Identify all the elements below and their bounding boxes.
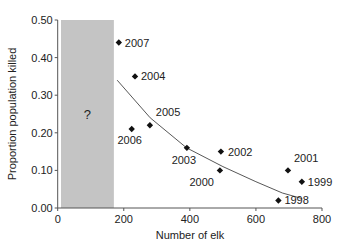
diamond-marker-icon: [132, 73, 138, 79]
y-axis-label: Proportion population killed: [6, 48, 18, 181]
point-label: 1999: [308, 176, 332, 188]
data-point-2002: 2002: [218, 146, 253, 158]
data-point-2006: 2006: [117, 126, 141, 146]
data-point-2007: 2007: [116, 37, 150, 49]
diamond-marker-icon: [184, 145, 190, 151]
point-label: 2001: [294, 152, 318, 164]
diamond-marker-icon: [218, 148, 224, 154]
data-point-1999: 1999: [299, 176, 333, 188]
y-tick-label: 0.10: [31, 164, 52, 176]
x-tick-label: 200: [115, 213, 133, 225]
data-points: 2007200420062005200320022000200119991998: [116, 37, 333, 207]
x-tick-label: 800: [313, 213, 331, 225]
diamond-marker-icon: [129, 126, 135, 132]
data-point-1998: 1998: [275, 194, 309, 206]
x-tick-label: 0: [55, 213, 61, 225]
x-axis-label: Number of elk: [156, 229, 225, 241]
unknown-region: ?: [61, 20, 114, 208]
data-point-2003: 2003: [172, 145, 196, 166]
diamond-marker-icon: [116, 39, 122, 45]
data-point-2005: 2005: [147, 106, 181, 128]
point-label: 2007: [125, 37, 149, 49]
y-tick-label: 0.20: [31, 127, 52, 139]
question-mark-label: ?: [84, 107, 91, 122]
data-point-2004: 2004: [132, 70, 166, 82]
y-tick-label: 0.40: [31, 52, 52, 64]
y-tick-label: 0.50: [31, 14, 52, 26]
diamond-marker-icon: [275, 197, 281, 203]
diamond-marker-icon: [299, 178, 305, 184]
point-label: 2004: [141, 70, 165, 82]
point-label: 2005: [156, 106, 180, 118]
elk-scatter-chart: ? 02004006008000.000.100.200.300.400.50 …: [0, 0, 349, 250]
y-tick-label: 0.30: [31, 89, 52, 101]
point-label: 2006: [117, 134, 141, 146]
x-tick-label: 400: [181, 213, 199, 225]
diamond-marker-icon: [217, 167, 223, 173]
diamond-marker-icon: [147, 122, 153, 128]
point-label: 2002: [228, 146, 252, 158]
point-label: 2000: [189, 176, 213, 188]
point-label: 2003: [172, 154, 196, 166]
data-point-2001: 2001: [285, 152, 319, 173]
data-point-2000: 2000: [189, 167, 223, 188]
point-label: 1998: [284, 194, 308, 206]
x-tick-label: 600: [247, 213, 265, 225]
y-tick-label: 0.00: [31, 202, 52, 214]
diamond-marker-icon: [285, 167, 291, 173]
